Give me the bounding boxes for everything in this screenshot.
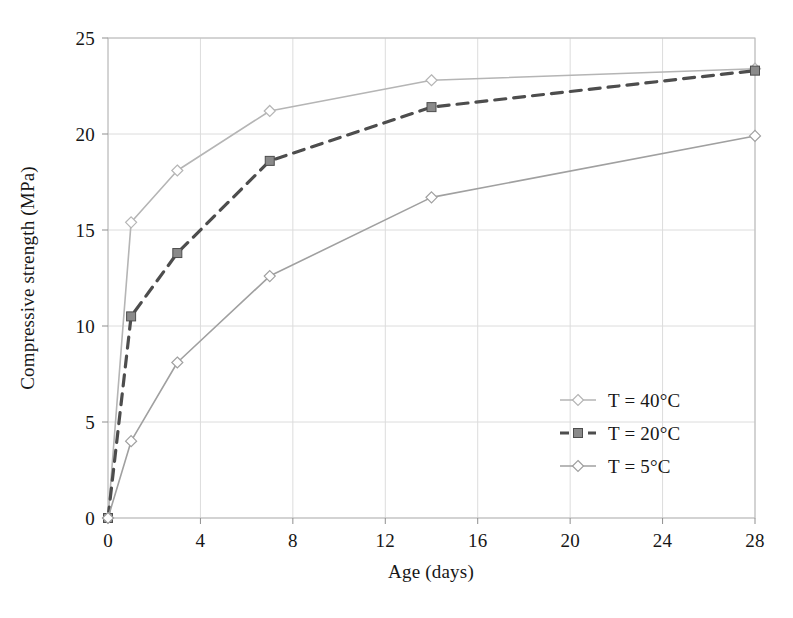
x-tick-label: 24	[653, 530, 673, 551]
y-tick-label: 25	[76, 28, 95, 49]
legend: T = 40°CT = 20°CT = 5°C	[560, 390, 680, 477]
legend-label-1: T = 40°C	[608, 390, 680, 411]
y-tick-label: 10	[76, 316, 95, 337]
data-point-marker-legend-2	[574, 429, 583, 438]
x-tick-label: 20	[560, 530, 579, 551]
data-point-marker-2-1	[127, 312, 136, 321]
x-tick-label: 16	[468, 530, 487, 551]
data-point-marker-2-2	[173, 249, 182, 258]
compressive-strength-line-chart: 0510152025 0481216202428 Age (days) Comp…	[0, 0, 793, 618]
y-axis-title: Compressive strength (MPa)	[17, 166, 39, 390]
data-point-marker-2-4	[427, 103, 436, 112]
y-tick-label: 5	[85, 412, 95, 433]
x-tick-label: 12	[376, 530, 395, 551]
y-tick-label: 20	[76, 124, 95, 145]
x-axis-title: Age (days)	[388, 561, 474, 583]
data-point-marker-2-5	[751, 66, 760, 75]
chart-background	[0, 0, 793, 618]
x-tick-label: 28	[745, 530, 764, 551]
legend-label-3: T = 5°C	[608, 456, 671, 477]
x-tick-label: 0	[103, 530, 113, 551]
x-tick-label: 8	[288, 530, 298, 551]
chart-figure: 0510152025 0481216202428 Age (days) Comp…	[0, 0, 793, 618]
y-tick-label: 0	[85, 508, 95, 529]
y-tick-label: 15	[76, 220, 95, 241]
data-point-marker-2-3	[265, 156, 274, 165]
legend-label-2: T = 20°C	[608, 423, 680, 444]
x-tick-label: 4	[196, 530, 206, 551]
